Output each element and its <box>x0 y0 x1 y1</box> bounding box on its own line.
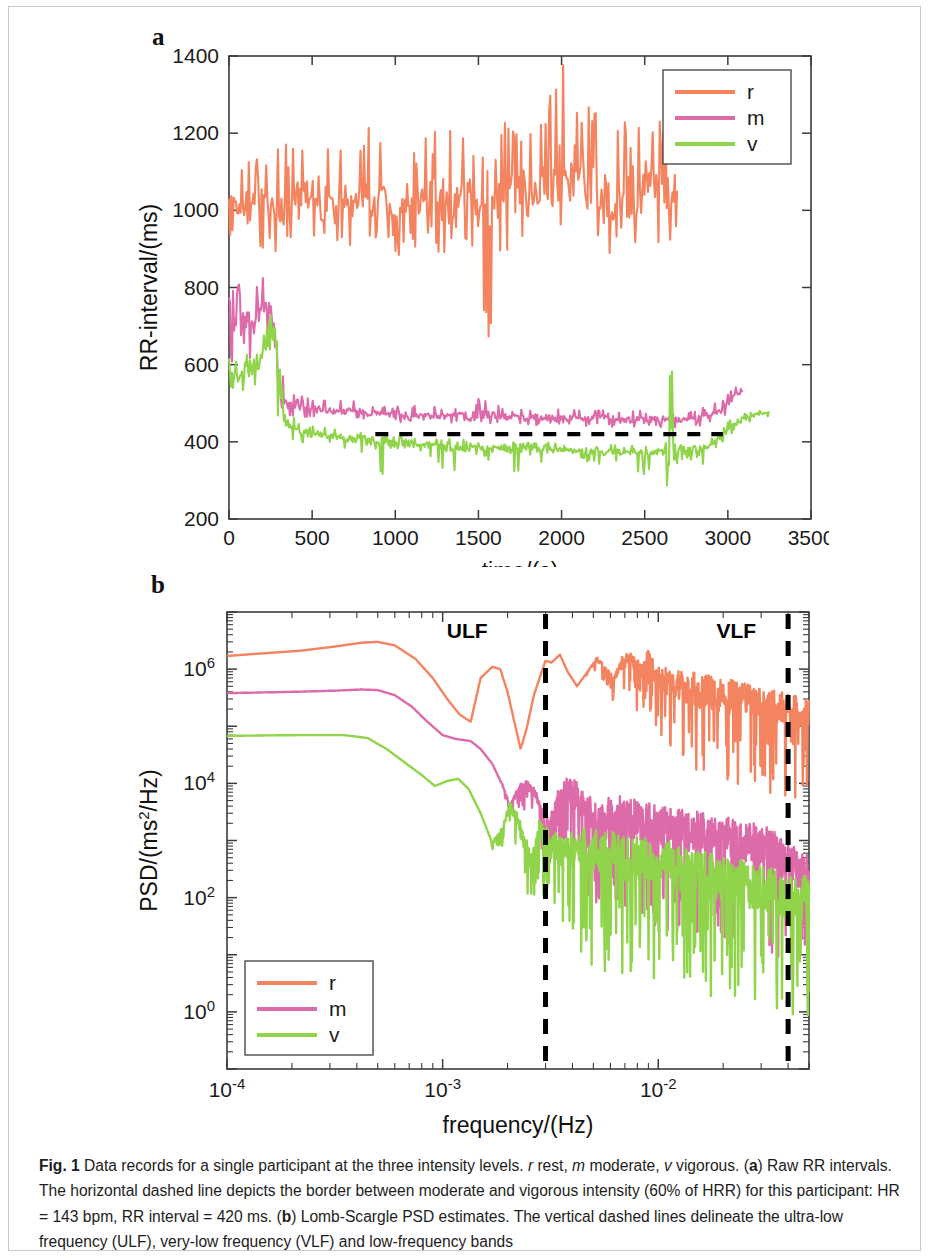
panel-b-y-axis-title: PSD/(ms2/Hz) <box>135 769 162 912</box>
caption-v-italic: v <box>664 1157 672 1174</box>
y-tick-label: 200 <box>184 507 219 530</box>
panel-b-legend: rmv <box>245 961 373 1055</box>
panel-b-chart: 10-410-310-2100102104106frequency/(Hz)PS… <box>127 587 827 1147</box>
panel-a-legend: rmv <box>663 70 791 164</box>
x-tick-label: 1000 <box>372 526 419 549</box>
panel-a-x-axis-title: time/(s) <box>482 558 559 567</box>
caption-m-italic: m <box>572 1157 585 1174</box>
x-tick-label: 2000 <box>538 526 585 549</box>
panel-a-series-v <box>229 316 769 486</box>
figure-container: a b 050010001500200025003000350020040060… <box>8 6 921 1251</box>
y-tick-label: 800 <box>184 276 219 299</box>
y-tick-label: 102 <box>183 883 215 909</box>
x-tick-label: 1500 <box>455 526 502 549</box>
y-tick-label: 600 <box>184 353 219 376</box>
x-tick-label: 2500 <box>621 526 668 549</box>
x-tick-label: 10-2 <box>640 1075 677 1101</box>
panel-b-series-r <box>227 642 809 798</box>
legend-label-v: v <box>329 1023 340 1046</box>
panel-b-x-axis-title: frequency/(Hz) <box>443 1112 594 1138</box>
caption-number: Fig. 1 <box>39 1157 80 1174</box>
figure-caption: Fig. 1 Data records for a single partici… <box>39 1153 911 1254</box>
caption-part-3: moderate, <box>585 1157 664 1174</box>
x-tick-label: 3500 <box>788 526 829 549</box>
legend-label-m: m <box>329 997 347 1020</box>
legend-label-r: r <box>329 971 336 994</box>
caption-b-bold: b <box>282 1208 292 1225</box>
panel-a-series-r <box>229 65 677 337</box>
legend-label-m: m <box>747 106 765 129</box>
y-tick-label: 104 <box>183 768 215 794</box>
x-tick-label: 500 <box>295 526 330 549</box>
y-tick-label: 1000 <box>172 198 219 221</box>
y-tick-label: 1200 <box>172 121 219 144</box>
caption-a-bold: a <box>749 1157 758 1174</box>
x-tick-label: 10-4 <box>209 1075 246 1101</box>
y-tick-label: 400 <box>184 430 219 453</box>
band-label-vlf: VLF <box>716 619 756 642</box>
caption-part-1: Data records for a single participant at… <box>84 1157 528 1174</box>
panel-a-chart: 0500100015002000250030003500200400600800… <box>129 37 829 567</box>
legend-label-v: v <box>747 132 758 155</box>
legend-label-r: r <box>747 80 754 103</box>
y-tick-label: 100 <box>183 997 215 1023</box>
y-tick-label: 1400 <box>172 44 219 67</box>
band-label-ulf: ULF <box>447 619 488 642</box>
x-tick-label: 3000 <box>704 526 751 549</box>
y-tick-label: 106 <box>183 654 215 680</box>
caption-part-2: rest, <box>533 1157 572 1174</box>
x-tick-label: 0 <box>223 526 235 549</box>
panel-a-y-axis-title: RR-interval/(ms) <box>136 204 162 371</box>
x-tick-label: 10-3 <box>424 1075 461 1101</box>
caption-part-4: vigorous. ( <box>672 1157 749 1174</box>
